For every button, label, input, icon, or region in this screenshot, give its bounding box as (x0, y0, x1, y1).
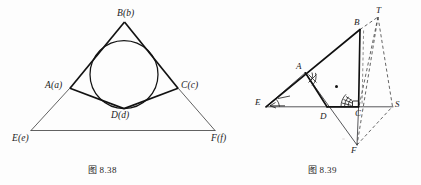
thin-lines (266, 73, 393, 145)
triangle-abc (70, 22, 178, 109)
side-ba (70, 22, 125, 88)
caption-figure-8-38: 图 8.38 (88, 163, 117, 176)
label-d-left: D(d) (111, 110, 129, 120)
label-c-left: C(c) (181, 80, 198, 90)
figure-8-39-drawing (250, 0, 421, 158)
caption-prefix-8-38: 图 (88, 165, 97, 175)
label-f-left: F(f) (211, 133, 226, 143)
angle-mark-c (341, 94, 352, 106)
right-angle-square-c (353, 101, 359, 107)
print-speck (342, 138, 345, 140)
dash-b-to-t (360, 17, 378, 30)
label-f-right: F (351, 145, 357, 155)
bold-edges (266, 30, 360, 107)
dash-f-to-s (357, 107, 393, 146)
side-bc (125, 22, 179, 88)
caption-prefix-8-39: 图 (308, 165, 317, 175)
caption-number-8-38: 8.38 (100, 165, 117, 175)
side-ad (70, 88, 124, 108)
label-s: S (395, 99, 400, 109)
side-dc (124, 88, 178, 108)
dash-t-to-c (359, 17, 378, 107)
dash-t-to-s (378, 17, 393, 107)
figure-plate: B(b) A(a) C(c) D(d) E(e) F(f) 图 8.38 (0, 0, 421, 185)
label-e-left: E(e) (12, 133, 29, 143)
edge-b-to-c (359, 30, 360, 107)
figure-8-38: B(b) A(a) C(c) D(d) E(e) F(f) 图 8.38 (0, 0, 250, 185)
label-c-right: C (355, 108, 361, 118)
caption-figure-8-39: 图 8.39 (308, 163, 337, 176)
dash-inner-bc (362, 31, 364, 107)
label-d-right: D (320, 111, 327, 121)
label-a-right: A (296, 61, 302, 71)
ray-a-to-e (31, 88, 70, 131)
label-a-left: A(a) (45, 80, 62, 90)
label-b-left: B(b) (117, 8, 134, 18)
label-t: T (376, 5, 381, 15)
caption-number-8-39: 8.39 (320, 165, 337, 175)
label-b-right: B (354, 17, 360, 27)
edge-e-to-b (266, 30, 360, 107)
figure-8-39: T B A E D C S F 图 8.39 (250, 0, 421, 185)
label-e-right: E (255, 97, 261, 107)
ray-c-to-f (178, 88, 215, 131)
centroid-dot (335, 85, 338, 88)
